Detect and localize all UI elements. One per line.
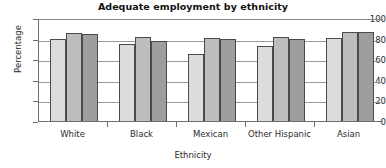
x-tick-separator xyxy=(107,122,108,127)
bar[interactable] xyxy=(342,32,358,121)
bar[interactable] xyxy=(220,39,236,121)
chart-title: Adequate employment by ethnicity xyxy=(0,1,386,12)
bar[interactable] xyxy=(151,41,167,121)
plot-area xyxy=(38,19,383,122)
bar-group xyxy=(108,20,177,121)
bar[interactable] xyxy=(135,37,151,121)
bar-group xyxy=(39,20,108,121)
x-axis-title: Ethnicity xyxy=(0,150,386,160)
x-tick-label: White xyxy=(38,129,107,139)
y-axis-title: Percentage xyxy=(13,9,23,89)
x-tick-label: Asian xyxy=(314,129,383,139)
x-tick-separator xyxy=(245,122,246,127)
bar[interactable] xyxy=(82,34,98,121)
x-tick-separator xyxy=(314,122,315,127)
bar[interactable] xyxy=(257,46,273,121)
x-tick-label: Black xyxy=(107,129,176,139)
bar[interactable] xyxy=(119,44,135,121)
bar[interactable] xyxy=(204,38,220,121)
x-tick-label: Mexican xyxy=(176,129,245,139)
x-tick-label: Other Hispanic xyxy=(245,129,314,139)
x-tick-separator xyxy=(176,122,177,127)
bar-group xyxy=(315,20,384,121)
y-tick-mark xyxy=(33,122,38,123)
bar-chart: Adequate employment by ethnicity Percent… xyxy=(0,0,386,168)
bar[interactable] xyxy=(358,32,374,121)
bar[interactable] xyxy=(326,38,342,121)
bar[interactable] xyxy=(289,39,305,121)
bar[interactable] xyxy=(50,39,66,121)
bar-group xyxy=(177,20,246,121)
bar[interactable] xyxy=(188,54,204,121)
bar-group xyxy=(246,20,315,121)
bar[interactable] xyxy=(273,37,289,121)
bar[interactable] xyxy=(66,33,82,121)
